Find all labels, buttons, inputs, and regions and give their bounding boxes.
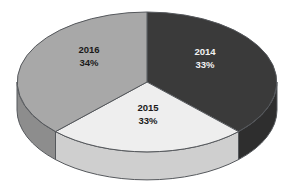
slice-2016-label-name: 2016 bbox=[78, 44, 99, 55]
slice-2015-label-percent: 33% bbox=[138, 115, 158, 126]
slice-2015-label-name: 2015 bbox=[137, 102, 159, 113]
slice-2016-label-percent: 34% bbox=[79, 57, 99, 68]
slice-2014-label-percent: 33% bbox=[195, 59, 215, 70]
slice-2014-label-name: 2014 bbox=[194, 46, 216, 57]
pie-chart-container: 2014 33% 2016 34% 2015 33% bbox=[0, 0, 293, 184]
pie-chart-graphic: 2014 33% 2016 34% 2015 33% bbox=[0, 0, 293, 184]
